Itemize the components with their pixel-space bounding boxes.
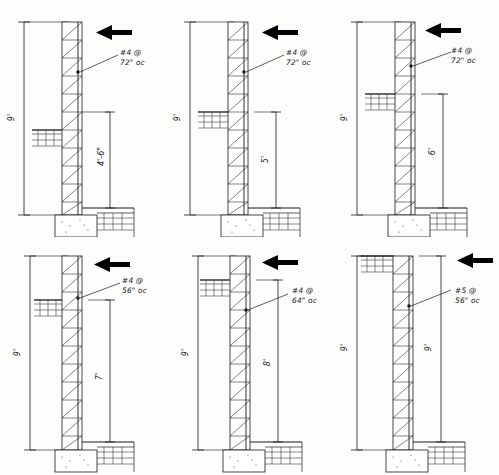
rebar-point-icon (76, 70, 80, 74)
overall-height-label: 9' (181, 349, 190, 356)
backfill-height-label: 7' (95, 373, 104, 380)
arrow-left-icon (262, 25, 298, 40)
arrow-left-icon (96, 25, 132, 40)
arrow-left-icon (425, 23, 461, 38)
rebar-note-line2: 56" oc (122, 286, 147, 296)
backfill-height-label: 8' (263, 359, 272, 366)
overall-height-label: 9' (340, 114, 349, 121)
fill-hatch (97, 447, 134, 464)
overall-height-label: 9' (173, 114, 182, 121)
rebar-point-icon (242, 70, 246, 74)
drawing-sheet: #4 @ 72" oc 9' 4'-6" (0, 0, 499, 475)
overall-height-label: 9' (13, 349, 22, 356)
overall-height-label: 9' (7, 114, 16, 121)
fill-hatch (265, 447, 302, 464)
rebar-note-line2: 64" oc (292, 296, 317, 306)
rebar-note-line1: #5 @ (455, 286, 480, 296)
backfill-height-label: 4'-6" (97, 147, 106, 166)
rebar-note-line2: 56" oc (455, 296, 480, 306)
wall-section-panel-5[interactable]: #4 @ 64" oc 9' 8' (166, 238, 332, 475)
rebar-note: #4 @ 56" oc (122, 276, 147, 296)
wall-section-drawing (166, 238, 332, 475)
leader-line (248, 294, 288, 310)
rebar-note-line1: #4 @ (122, 276, 147, 286)
rebar-note-line1: #4 @ (292, 286, 317, 296)
cmu-wall-body (228, 22, 248, 215)
wall-section-drawing (333, 238, 499, 475)
rebar-note-line2: 72" oc (451, 56, 476, 66)
cmu-wall-body (62, 22, 82, 215)
fill-hatch (430, 213, 467, 230)
concrete-footing (55, 215, 97, 237)
wall-section-panel-3[interactable]: #4 @ 72" oc 9' 6' (333, 0, 499, 237)
earth-hatch (200, 280, 230, 296)
overall-height-label: 9' (340, 344, 349, 351)
rebar-note: #4 @ 72" oc (286, 48, 311, 68)
wall-section-panel-4[interactable]: #4 @ 56" oc 9' 7' (0, 238, 166, 475)
rebar-note-line2: 72" oc (286, 58, 311, 68)
fill-hatch (97, 213, 134, 230)
leader-line (413, 52, 451, 66)
rebar-note: #4 @ 72" oc (451, 46, 476, 66)
leader-line (246, 55, 284, 72)
concrete-footing (221, 215, 263, 237)
leader-line (411, 290, 451, 306)
leader-line (80, 55, 118, 72)
wall-section-drawing (166, 0, 332, 237)
rebar-note: #4 @ 64" oc (292, 286, 317, 306)
earth-hatch (365, 94, 395, 110)
earth-hatch (361, 256, 393, 272)
arrow-left-icon (262, 255, 298, 270)
concrete-footing (388, 215, 430, 237)
wall-section-panel-2[interactable]: #4 @ 72" oc 9' 5' (166, 0, 332, 237)
wall-section-drawing (0, 238, 166, 475)
rebar-note-line1: #4 @ (120, 48, 145, 58)
wall-section-panel-1[interactable]: #4 @ 72" oc 9' 4'-6" (0, 0, 166, 237)
rebar-point-icon (409, 64, 413, 68)
rebar-note-line1: #4 @ (286, 48, 311, 58)
backfill-height-label: 9' (424, 344, 433, 351)
arrow-left-icon (457, 253, 493, 268)
backfill-height-label: 6' (428, 148, 437, 155)
earth-hatch (32, 130, 62, 146)
wall-section-drawing (333, 0, 499, 237)
wall-section-drawing (0, 0, 166, 237)
fill-hatch (263, 213, 300, 230)
arrow-left-icon (94, 257, 130, 272)
rebar-note: #5 @ 56" oc (455, 286, 480, 306)
concrete-footing (386, 450, 428, 472)
rebar-note-line1: #4 @ (451, 46, 476, 56)
backfill-height-label: 5' (261, 156, 270, 163)
earth-hatch (198, 112, 228, 128)
cmu-wall-body (395, 22, 415, 215)
concrete-footing (55, 450, 97, 472)
rebar-note: #4 @ 72" oc (120, 48, 145, 68)
wall-section-panel-6[interactable]: #5 @ 56" oc 9' 9' (333, 238, 499, 475)
fill-hatch (428, 447, 465, 464)
rebar-note-line2: 72" oc (120, 58, 145, 68)
rebar-point-icon (76, 296, 80, 300)
rebar-point-icon (407, 304, 411, 308)
earth-hatch (34, 300, 62, 316)
concrete-footing (223, 450, 265, 472)
leader-line (80, 283, 120, 298)
rebar-point-icon (244, 308, 248, 312)
